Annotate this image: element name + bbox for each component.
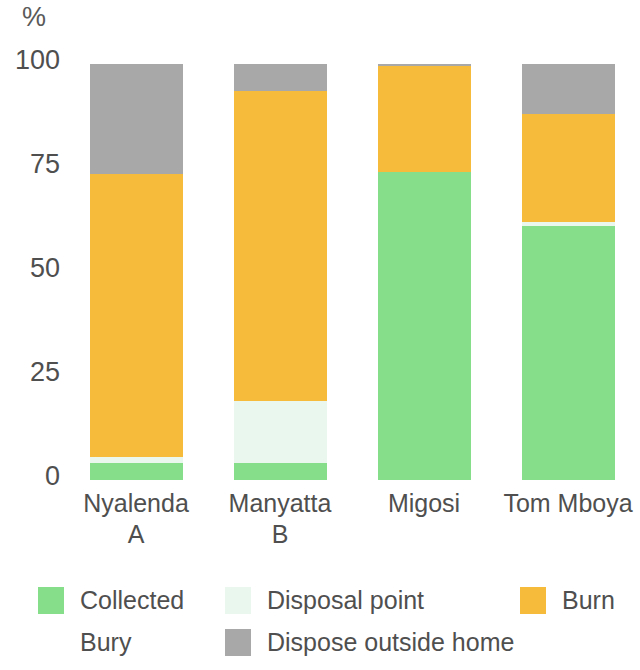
x-axis-label-tom-mboya: Tom Mboya (484, 488, 640, 519)
x-axis-label-migosi: Migosi (340, 488, 508, 519)
legend-label-burn: Burn (562, 586, 615, 615)
bar-segment-burn[interactable] (234, 91, 327, 401)
y-axis: 0255075100 (0, 0, 60, 500)
legend-item-bury[interactable]: Bury (38, 628, 131, 657)
bar-group-manyatta-b[interactable] (234, 64, 327, 480)
legend-label-disposal-point: Disposal point (267, 586, 424, 615)
y-axis-tick-0: 0 (4, 463, 60, 490)
stacked-bar-chart: % 0255075100 Nyalenda AManyatta BMigosiT… (0, 0, 640, 670)
bar-segment-burn[interactable] (522, 114, 615, 222)
chart-legend: CollectedDisposal pointBurnBuryDispose o… (0, 580, 640, 670)
x-axis-label-nyalenda-a: Nyalenda A (52, 488, 220, 549)
legend-item-burn[interactable]: Burn (520, 586, 615, 615)
legend-label-collected: Collected (80, 586, 184, 615)
bar-segment-dispose-outside-home[interactable] (90, 64, 183, 174)
bar-segment-disposal-point[interactable] (234, 401, 327, 463)
x-axis-labels: Nyalenda AManyatta BMigosiTom Mboya (64, 488, 640, 568)
bar-group-migosi[interactable] (378, 64, 471, 480)
bar-group-nyalenda-a[interactable] (90, 64, 183, 480)
y-axis-tick-100: 100 (4, 47, 60, 74)
legend-item-dispose-outside-home[interactable]: Dispose outside home (225, 628, 514, 657)
bar-segment-collected[interactable] (90, 463, 183, 480)
bar-segment-dispose-outside-home[interactable] (522, 64, 615, 114)
y-axis-tick-75: 75 (4, 151, 60, 178)
legend-swatch-burn (520, 587, 546, 614)
y-axis-tick-25: 25 (4, 359, 60, 386)
legend-swatch-disposal-point (225, 587, 251, 614)
x-axis-label-manyatta-b: Manyatta B (196, 488, 364, 549)
legend-swatch-bury (38, 629, 64, 656)
plot-area (64, 64, 640, 480)
bar-group-tom-mboya[interactable] (522, 64, 615, 480)
bar-segment-burn[interactable] (90, 174, 183, 457)
y-axis-tick-50: 50 (4, 255, 60, 282)
legend-item-disposal-point[interactable]: Disposal point (225, 586, 424, 615)
legend-label-bury: Bury (80, 628, 131, 657)
legend-swatch-dispose-outside-home (225, 629, 251, 656)
legend-label-dispose-outside-home: Dispose outside home (267, 628, 514, 657)
bar-segment-collected[interactable] (234, 463, 327, 480)
bar-segment-collected[interactable] (378, 172, 471, 480)
bar-segment-collected[interactable] (522, 226, 615, 480)
legend-swatch-collected (38, 587, 64, 614)
bar-segment-burn[interactable] (378, 66, 471, 172)
bar-segment-dispose-outside-home[interactable] (234, 64, 327, 91)
legend-item-collected[interactable]: Collected (38, 586, 184, 615)
